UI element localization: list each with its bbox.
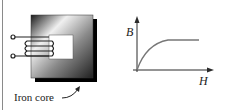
- core-pointer-arrow: [62, 86, 80, 98]
- bh-graph: [133, 16, 214, 73]
- iron-core: [31, 15, 97, 82]
- iron-core-label: Iron core: [14, 91, 54, 103]
- y-axis-label: B: [126, 25, 133, 40]
- x-axis-label: H: [199, 74, 208, 89]
